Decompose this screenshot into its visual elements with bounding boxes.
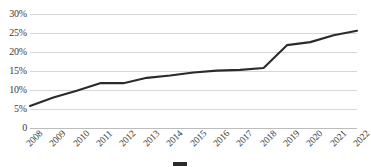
x-axis-tick-2021: 2021	[328, 128, 348, 148]
x-axis-tick-2008: 2008	[24, 128, 44, 148]
plot-canvas	[30, 14, 357, 128]
x-axis-tick-2017: 2017	[235, 128, 255, 148]
x-axis-tick-2016: 2016	[211, 128, 231, 148]
chart-plot-area: 30% 25% 20% 15% 10% 5% 0 2008 2009 2010 …	[0, 0, 363, 131]
x-axis-tick-2009: 2009	[48, 128, 68, 148]
y-axis-tick-0: 0	[22, 123, 27, 133]
x-axis-tick-2012: 2012	[118, 128, 138, 148]
y-axis-tick-10: 10%	[9, 85, 27, 95]
x-axis-tick-2018: 2018	[258, 128, 278, 148]
y-axis-tick-20: 20%	[9, 47, 27, 57]
y-axis-tick-25: 25%	[9, 28, 27, 38]
y-axis-tick-30: 30%	[9, 9, 27, 19]
x-axis-tick-2019: 2019	[281, 128, 301, 148]
series-line	[30, 14, 357, 128]
x-axis-tick-2022: 2022	[351, 128, 371, 148]
figure-caption	[0, 158, 363, 167]
x-axis-tick-2014: 2014	[164, 128, 184, 148]
x-axis-tick-2020: 2020	[305, 128, 325, 148]
line-series-swatch-icon	[173, 162, 187, 166]
y-axis-tick-15: 15%	[9, 66, 27, 76]
x-axis-tick-2013: 2013	[141, 128, 161, 148]
x-axis-tick-2011: 2011	[94, 129, 114, 149]
y-axis-tick-5: 5%	[14, 104, 27, 114]
y-axis-tick-labels: 30% 25% 20% 15% 10% 5% 0	[0, 0, 30, 131]
x-axis-tick-2015: 2015	[188, 128, 208, 148]
x-axis-tick-2010: 2010	[71, 128, 91, 148]
